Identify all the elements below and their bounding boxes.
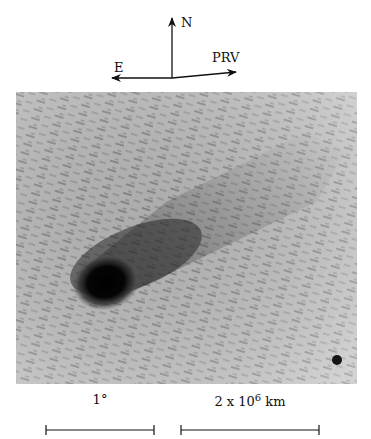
compass-rose: N E PRV (0, 0, 371, 90)
field-star (332, 355, 342, 365)
north-label: N (181, 15, 192, 30)
compass-arrows-icon (0, 0, 371, 90)
prv-label: PRV (212, 50, 239, 65)
scale-label-degree: 1° (45, 392, 155, 407)
east-label: E (114, 60, 124, 75)
comet-photo-graphic (16, 92, 357, 384)
scale-label-distance: 2 x 106 km (180, 392, 320, 409)
scale-bar-line-icon (45, 408, 155, 438)
comet-image (16, 92, 357, 384)
scale-bar-line-icon (180, 408, 320, 438)
